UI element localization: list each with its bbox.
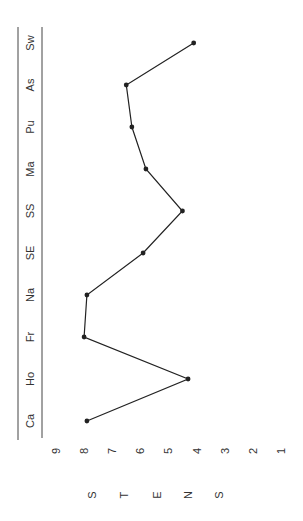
tick-label: 2 [247, 448, 259, 454]
tick-label: 1 [275, 448, 287, 454]
category-label: SS [24, 204, 36, 219]
data-point [144, 167, 149, 172]
category-label: Ho [24, 372, 36, 386]
tick-label: 6 [134, 448, 146, 454]
axis-title-letter: E [151, 491, 163, 498]
axis-title-letter: N [182, 491, 194, 499]
data-point [85, 293, 90, 298]
axis-title-letter: S [86, 491, 98, 498]
tick-label: 4 [191, 448, 203, 454]
axis-title-letter: T [118, 491, 130, 498]
axis-title-stens: STENS [86, 491, 225, 499]
tick-label: 7 [106, 448, 118, 454]
data-point [82, 335, 87, 340]
data-point [85, 419, 90, 424]
axis-title-letter: S [213, 491, 225, 498]
value-tick-labels: 987654321 [50, 448, 287, 454]
data-point [191, 41, 196, 46]
data-point [129, 125, 134, 130]
data-point-markers [82, 41, 196, 424]
series-line [84, 43, 194, 421]
tick-label: 3 [219, 448, 231, 454]
tick-label: 9 [50, 448, 62, 454]
category-label: Na [24, 287, 36, 302]
data-point [124, 83, 129, 88]
tick-label: 5 [162, 448, 174, 454]
category-label: As [24, 78, 36, 91]
category-labels: CaHoFrNaSESSMaPuAsSw [24, 35, 36, 428]
category-label: Fr [24, 331, 36, 342]
data-point [180, 209, 185, 214]
category-label: Ma [24, 160, 36, 176]
category-label: Pu [24, 120, 36, 133]
data-point [186, 377, 191, 382]
tick-label: 8 [78, 448, 90, 454]
stens-line-chart: CaHoFrNaSESSMaPuAsSw 987654321 STENS [0, 0, 303, 521]
category-label: SE [24, 246, 36, 261]
category-label: Ca [24, 413, 36, 428]
category-label: Sw [24, 35, 36, 50]
data-point [141, 251, 146, 256]
